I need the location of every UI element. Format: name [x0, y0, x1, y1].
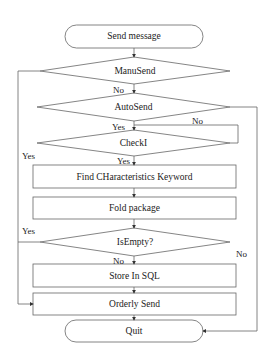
edge-label-autosend-no-right: No [236, 249, 247, 259]
quit-label: Quit [65, 325, 203, 337]
edge-label-manusend-yes: Yes [22, 151, 35, 161]
manusend-label: ManuSend [40, 65, 230, 77]
isempty-label: IsEmpty? [40, 236, 230, 248]
fold-label: Fold package [33, 202, 236, 214]
store-label: Store In SQL [33, 270, 236, 282]
autosend-label: AutoSend [37, 101, 230, 113]
check-label: CheckI [37, 137, 230, 149]
edge-label-autosend-no-loop: No [192, 116, 203, 126]
edge-label-manusend-no: No [113, 85, 124, 95]
find-label: Find CHaracteristics Keyword [33, 171, 236, 183]
edge-label-isempty-yes: Yes [22, 226, 35, 236]
edge-label-autosend-yes: Yes [112, 122, 125, 132]
edge-label-check-yes: Yes [117, 156, 130, 166]
edge-label-isempty-no: No [113, 256, 124, 266]
orderly-label: Orderly Send [33, 298, 236, 310]
start-label: Send message [65, 30, 203, 42]
